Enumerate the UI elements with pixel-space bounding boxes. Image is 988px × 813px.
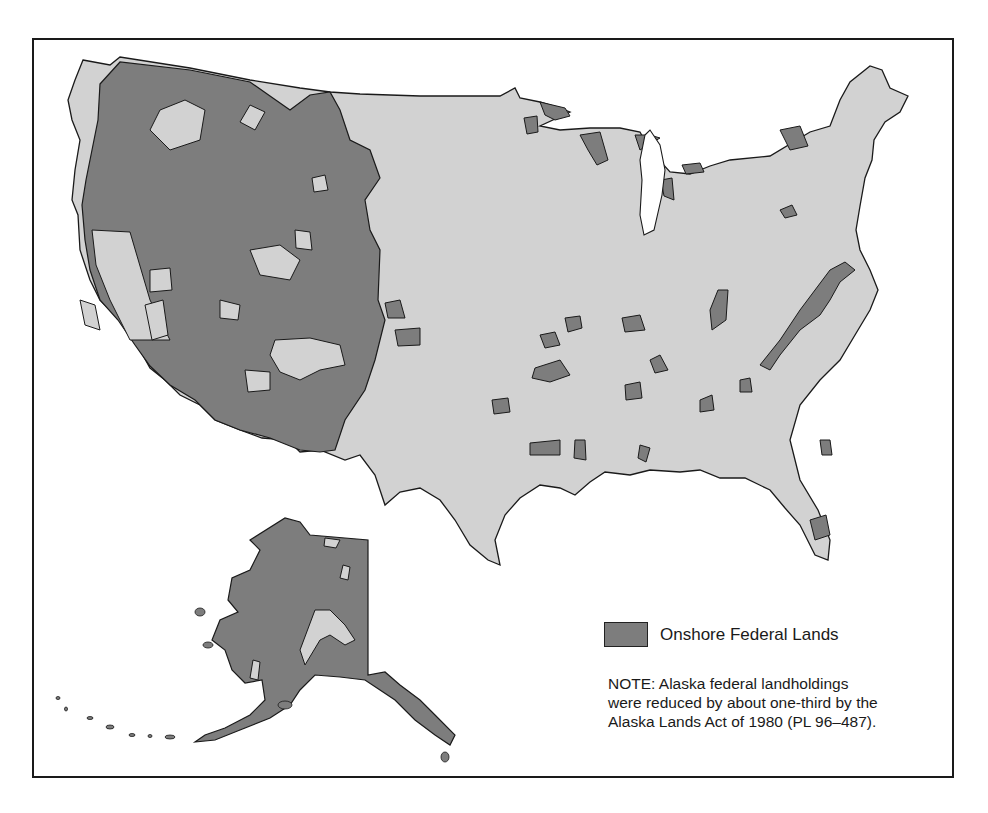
note-line: NOTE: Alaska federal landholdings [608, 674, 928, 693]
note-line: were reduced by about one-third by the [608, 693, 928, 712]
federal-lands-swatch [604, 622, 648, 647]
legend: Onshore Federal Lands [604, 622, 839, 647]
legend-label: Onshore Federal Lands [660, 625, 839, 645]
alaska-note: NOTE: Alaska federal landholdings were r… [608, 674, 928, 731]
note-line: Alaska Lands Act of 1980 (PL 96–487). [608, 712, 928, 731]
